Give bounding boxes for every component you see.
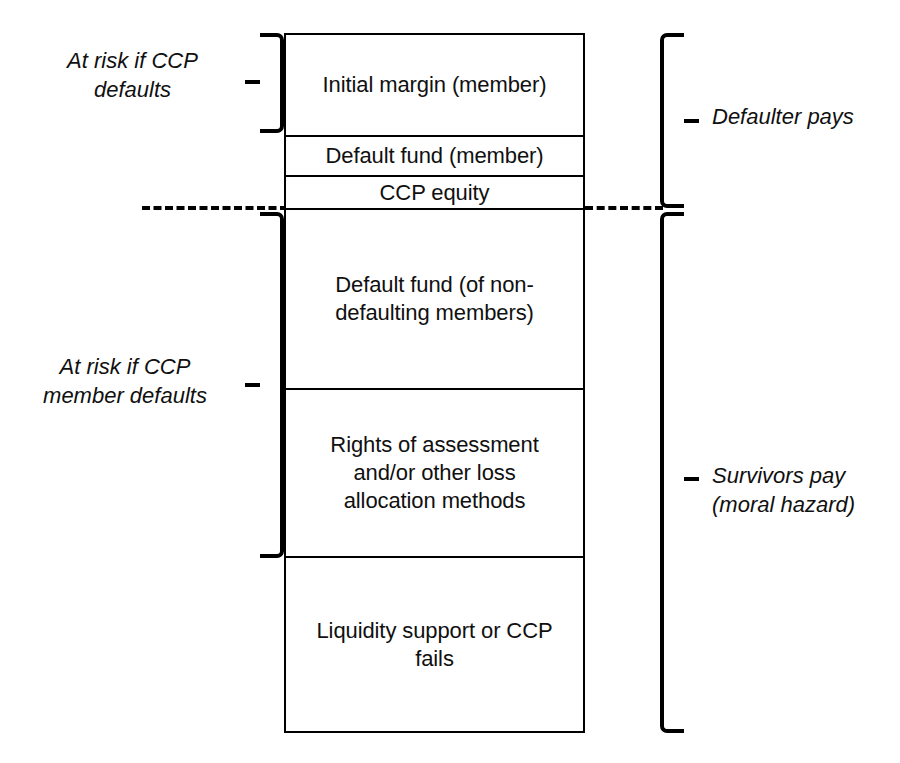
dashed-divider-right [585, 206, 663, 210]
tier-default-fund-member: Default fund (member) [284, 135, 585, 177]
tier-liquidity-support: Liquidity support or CCP fails [284, 556, 585, 733]
bracket-right-lower-tick [684, 477, 699, 481]
tier-liquidity-support-label: Liquidity support or CCP fails [308, 617, 560, 673]
bracket-right-upper-tick [684, 119, 699, 123]
bracket-right-lower [660, 212, 684, 733]
bracket-left-lower [260, 212, 284, 558]
tier-default-fund-non-defaulting-label: Default fund (of non- defaulting members… [327, 271, 542, 327]
tier-rights-of-assessment: Rights of assessment and/or other loss a… [284, 388, 585, 558]
annotation-at-risk-if-ccp-member-defaults: At risk if CCP member defaults [10, 352, 240, 410]
tier-ccp-equity: CCP equity [284, 175, 585, 210]
annotation-defaulter-pays: Defaulter pays [712, 102, 897, 131]
annotation-survivors-pay: Survivors pay (moral hazard) [712, 461, 897, 519]
annotation-at-risk-if-ccp-defaults: At risk if CCP defaults [25, 46, 240, 104]
bracket-left-upper [260, 33, 284, 133]
waterfall-stack: Initial margin (member) Default fund (me… [284, 33, 585, 733]
dashed-divider-left [142, 206, 288, 210]
bracket-left-upper-tick [245, 80, 260, 84]
tier-ccp-equity-label: CCP equity [372, 179, 498, 207]
bracket-right-upper [660, 33, 684, 208]
ccp-default-waterfall-diagram: Initial margin (member) Default fund (me… [0, 0, 900, 763]
bracket-left-lower-tick [245, 383, 260, 387]
tier-default-fund-member-label: Default fund (member) [318, 142, 552, 170]
tier-initial-margin: Initial margin (member) [284, 33, 585, 137]
tier-initial-margin-label: Initial margin (member) [315, 71, 555, 99]
tier-default-fund-non-defaulting: Default fund (of non- defaulting members… [284, 208, 585, 390]
tier-rights-of-assessment-label: Rights of assessment and/or other loss a… [322, 431, 546, 515]
